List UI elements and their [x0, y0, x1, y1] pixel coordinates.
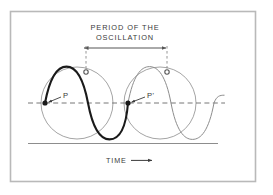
period-marker-right [165, 70, 169, 74]
point-label-p: P [63, 91, 68, 100]
point-marker-p [42, 100, 47, 105]
point-label-p-prime: P' [147, 91, 154, 100]
oscillation-diagram-canvas: P P' PERIOD OF THE OSCILLATION TIME [0, 0, 273, 195]
period-marker-left [84, 70, 88, 74]
oscillation-figure: P P' PERIOD OF THE OSCILLATION TIME [0, 0, 273, 195]
axis-label-time: TIME [106, 156, 127, 165]
point-marker-p-prime [125, 100, 130, 105]
title-line-1: PERIOD OF THE [90, 23, 159, 32]
title-line-2: OSCILLATION [96, 33, 154, 42]
